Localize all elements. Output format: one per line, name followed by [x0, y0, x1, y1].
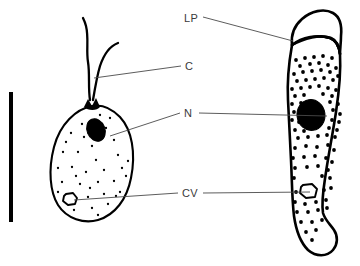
scale-bar-group — [9, 92, 13, 222]
granule-dot — [299, 220, 303, 224]
granule-dot — [310, 238, 314, 242]
granule-dot — [329, 186, 333, 190]
granule-dot — [325, 133, 329, 137]
granule-dot — [331, 78, 335, 82]
granule-dot — [315, 145, 319, 149]
granule-dot — [293, 94, 297, 98]
granule-dot — [326, 168, 330, 172]
granule-dot — [91, 207, 93, 209]
granule-dot — [322, 188, 326, 192]
granule-dot — [109, 117, 111, 119]
granule-dot — [296, 136, 300, 140]
granule-dot — [97, 181, 99, 183]
granule-dot — [313, 77, 317, 81]
granule-dot — [99, 114, 101, 116]
granule-dot — [306, 210, 310, 214]
granule-dot — [70, 132, 72, 134]
granule-dot — [292, 176, 296, 180]
granule-dot — [310, 69, 314, 73]
granule-dot — [330, 56, 334, 60]
granule-dot — [336, 102, 340, 106]
flagellum-long-icon — [83, 18, 90, 100]
granule-dot — [336, 74, 340, 78]
granule-dot — [298, 64, 302, 68]
granule-dot — [328, 176, 332, 180]
granule-dot — [302, 155, 306, 159]
left-cell-flagella-group — [83, 18, 118, 100]
granule-dot — [292, 72, 296, 76]
granule-dot — [330, 160, 334, 164]
granule-dot — [320, 218, 324, 222]
granule-dot — [290, 102, 294, 106]
granule-dot — [293, 146, 297, 150]
granule-dot — [75, 175, 77, 177]
granule-dot — [302, 93, 306, 97]
flagellum-short-icon — [93, 43, 118, 100]
label-c: C — [185, 60, 193, 72]
granule-dot — [314, 200, 318, 204]
granule-dot — [317, 61, 321, 65]
granule-dot — [328, 100, 332, 104]
granule-dot — [304, 230, 308, 234]
granule-dot — [57, 191, 59, 193]
granule-dot — [326, 143, 330, 147]
granule-dot — [295, 79, 299, 83]
granule-dot — [117, 154, 119, 156]
right-cell-body-outline — [288, 36, 341, 255]
granule-dot — [65, 141, 67, 143]
granule-dot — [337, 120, 341, 124]
granule-dot — [303, 202, 307, 206]
granule-dot — [107, 203, 109, 205]
labels-group: LP C N CV — [182, 12, 198, 199]
granule-dot — [304, 78, 308, 82]
granule-dot — [77, 151, 79, 153]
granule-dot — [333, 135, 337, 139]
granule-dot — [127, 160, 129, 162]
granule-dot — [316, 164, 320, 168]
granule-dot — [330, 94, 334, 98]
granule-dot — [308, 85, 312, 89]
granule-dot — [305, 165, 309, 169]
granule-dot — [312, 55, 316, 59]
granule-dot — [310, 220, 314, 224]
granule-dot — [293, 166, 297, 170]
granule-dot — [317, 84, 321, 88]
granule-dot — [83, 136, 85, 138]
granule-dot — [81, 123, 83, 125]
granule-dot — [61, 181, 63, 183]
granule-dot — [325, 206, 329, 210]
granule-dot — [57, 167, 59, 169]
granule-dot — [290, 118, 294, 122]
granule-dot — [324, 156, 328, 160]
granule-dot — [103, 193, 105, 195]
granule-dot — [334, 88, 338, 92]
left-cell-contractile-vacuole — [63, 193, 77, 205]
granule-dot — [119, 191, 121, 193]
granule-dot — [85, 171, 87, 173]
granule-dot — [320, 174, 324, 178]
granule-dot — [73, 209, 75, 211]
granule-dot — [338, 112, 342, 116]
granule-dot — [327, 126, 331, 130]
granule-dot — [79, 183, 81, 185]
granule-dot — [71, 166, 73, 168]
granule-dot — [316, 134, 320, 138]
leader-line-lp — [203, 17, 293, 41]
granule-dot — [103, 169, 105, 171]
granule-dot — [125, 175, 127, 177]
granule-dot — [328, 70, 332, 74]
granule-dot — [322, 76, 326, 80]
granule-dot — [306, 135, 310, 139]
granule-dot — [121, 167, 123, 169]
right-cell-group — [288, 11, 342, 256]
granule-dot — [334, 66, 338, 70]
granule-dot — [303, 56, 307, 60]
granule-dot — [314, 228, 318, 232]
granule-dot — [304, 144, 308, 148]
granule-dot — [291, 156, 295, 160]
granule-dot — [95, 159, 97, 161]
right-cell-contractile-vacuole — [300, 184, 317, 198]
left-cell-group — [51, 18, 134, 221]
cell-morphology-diagram: LP C N CV — [0, 0, 360, 266]
granule-dot — [331, 108, 335, 112]
